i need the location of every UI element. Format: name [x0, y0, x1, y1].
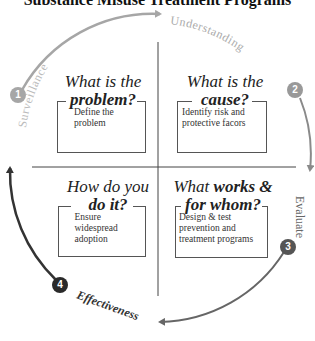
- label-evaluate: Evaluate: [293, 196, 307, 238]
- quadrant-doit-box: Ensure widespread adoption: [58, 206, 146, 257]
- arc-evaluate-to-effectiveness: [160, 252, 284, 322]
- arc-effectiveness-to-surveillance: [10, 168, 56, 280]
- stage-badge-2: 2: [287, 82, 303, 98]
- label-understanding: Understanding: [170, 13, 248, 54]
- quadrant-problem: What is the: [58, 73, 148, 91]
- quadrant-problem-box: Define the problem: [57, 101, 146, 153]
- quadrant-heading: What is the: [58, 73, 148, 91]
- quadrant-works-box: Design & test prevention and treatment p…: [175, 206, 268, 258]
- quadrant-cause: What is the: [180, 73, 270, 91]
- stage-badge-1: 1: [10, 87, 26, 103]
- cycle-diagram: Understanding Surveillance Evaluate Effe…: [0, 0, 315, 341]
- arc-understanding-to-evaluate: [300, 98, 311, 170]
- quadrant-doit: How do you: [58, 178, 158, 196]
- quadrant-works: What works &: [168, 178, 278, 196]
- stage-badge-4: 4: [52, 277, 68, 293]
- label-effectiveness: Effectiveness: [74, 287, 141, 323]
- stage-badge-3: 3: [280, 239, 296, 255]
- quadrant-cause-box: Identify risk and protective facors: [177, 101, 267, 153]
